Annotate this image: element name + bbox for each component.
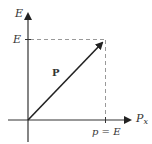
- diagram-canvas: [0, 0, 152, 144]
- x-tick-label: p = E: [92, 127, 120, 137]
- y-tick-label: E: [13, 34, 21, 45]
- momentum-vector: [28, 43, 102, 120]
- y-axis-label: E: [15, 8, 23, 19]
- vector-label: P: [52, 68, 60, 78]
- x-axis-label-sub: x: [143, 117, 148, 126]
- momentum-energy-diagram: E E P Px p = E: [0, 0, 152, 144]
- x-axis-label: Px: [136, 113, 148, 126]
